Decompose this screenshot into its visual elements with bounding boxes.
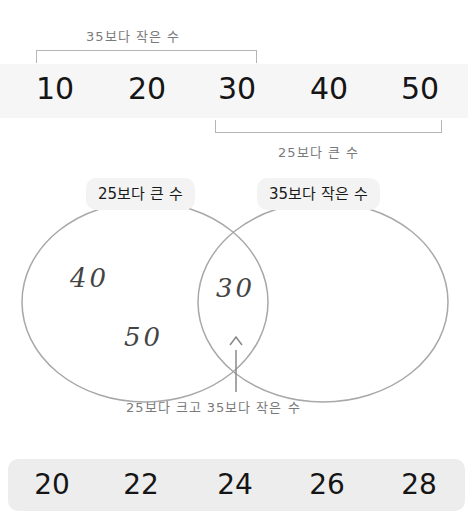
venn-value-50: 50: [124, 322, 163, 352]
venn-value-30: 30: [216, 273, 255, 303]
left-set-label: 25보다 큰 수: [86, 178, 195, 210]
intersection-annotation: 25보다 크고 35보다 작은 수: [126, 397, 301, 416]
choices-box: 20 22 24 26 28: [8, 459, 465, 511]
arrow-up-icon: [230, 337, 242, 345]
choice-28: 28: [401, 468, 437, 501]
choice-20: 20: [34, 468, 70, 501]
right-set-label: 35보다 작은 수: [257, 178, 380, 210]
choice-24: 24: [217, 468, 253, 501]
choice-22: 22: [123, 468, 159, 501]
choice-26: 26: [309, 468, 345, 501]
venn-value-40: 40: [70, 263, 109, 293]
venn-diagram: [0, 0, 468, 522]
